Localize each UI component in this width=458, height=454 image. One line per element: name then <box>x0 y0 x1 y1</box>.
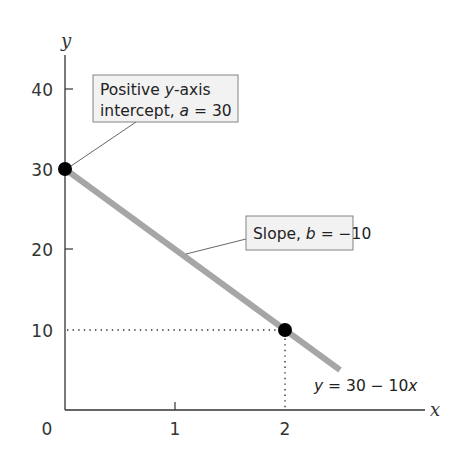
chart-canvas: y x 40 30 20 10 0 1 2 Positive y-axis in… <box>0 0 458 454</box>
slope-annotation: Slope, b = −10 <box>246 216 371 250</box>
intercept-annotation: Positive y-axis intercept, a = 30 <box>93 75 238 122</box>
x-tick-label-1: 1 <box>170 419 181 439</box>
y-tick-label-30: 30 <box>31 160 53 180</box>
point-x2-y10 <box>278 323 292 337</box>
svg-text:Slope, b = −10: Slope, b = −10 <box>253 225 371 243</box>
x-tick-label-2: 2 <box>280 419 291 439</box>
x-axis-title: x <box>430 399 440 420</box>
y-axis-title: y <box>60 30 72 51</box>
y-tick-label-40: 40 <box>31 80 53 100</box>
point-intercept <box>58 162 72 176</box>
y-tick-label-10: 10 <box>31 321 53 341</box>
y-tick-label-20: 20 <box>31 240 53 260</box>
slope-leader-line <box>186 239 246 254</box>
equation-label: y = 30 − 10x <box>313 377 418 395</box>
svg-text:Positive y-axis: Positive y-axis <box>100 81 211 99</box>
origin-label: 0 <box>42 419 53 439</box>
line-y-30-minus-10x <box>65 169 340 370</box>
intercept-leader-line <box>71 122 136 166</box>
svg-text:intercept, a = 30: intercept, a = 30 <box>100 102 232 120</box>
